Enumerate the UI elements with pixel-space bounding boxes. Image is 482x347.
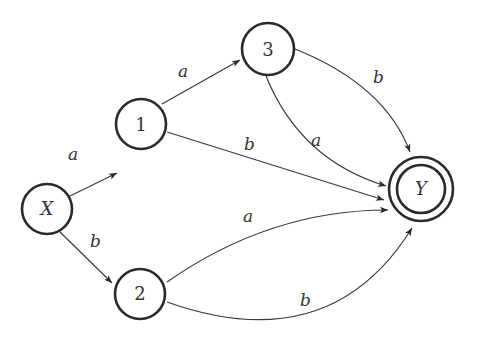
automaton-diagram: a b a b a b a b X 1 2 3 Y	[0, 0, 482, 347]
node-3-label: 3	[262, 39, 273, 60]
edge-label-1-3: a	[178, 61, 188, 81]
edge-2-y-b	[167, 228, 412, 320]
edge-label-x-2: b	[90, 231, 101, 251]
node-2: 2	[115, 269, 165, 319]
node-1: 1	[116, 99, 166, 149]
node-2-label: 2	[134, 283, 145, 304]
edge-1-3	[162, 60, 240, 104]
node-3: 3	[242, 23, 294, 75]
node-x: X	[22, 184, 72, 234]
edge-label-1-y: b	[244, 134, 255, 154]
edge-label-x-1: a	[68, 144, 78, 164]
edge-2-y-a	[167, 210, 388, 282]
edge-x-1	[68, 173, 117, 197]
node-1-label: 1	[135, 114, 146, 135]
edge-x-2	[60, 232, 112, 283]
edge-label-2-y-a: a	[243, 206, 253, 226]
edge-label-2-y-b: b	[300, 290, 311, 310]
node-y-accepting: Y	[389, 157, 453, 221]
edge-1-y	[167, 132, 384, 200]
node-x-label: X	[39, 198, 55, 219]
edge-label-3-y-a: a	[311, 130, 321, 150]
edge-label-3-y-b: b	[373, 67, 384, 87]
